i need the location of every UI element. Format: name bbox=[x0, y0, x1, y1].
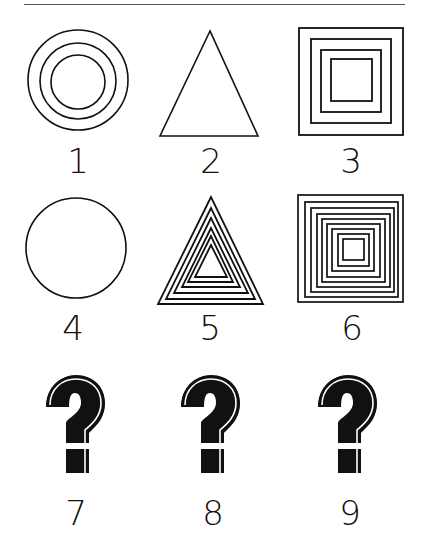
shape-7-question-mark-icon bbox=[46, 375, 105, 473]
cell-label-9: 9 bbox=[339, 493, 361, 533]
cell-label-3: 3 bbox=[340, 141, 362, 181]
shape-9-question-mark-icon bbox=[318, 375, 377, 473]
cell-label-4: 4 bbox=[62, 308, 84, 348]
shape-6-nested-squares bbox=[298, 195, 403, 302]
shape-1-concentric-circles bbox=[28, 30, 128, 130]
cell-label-6: 6 bbox=[341, 308, 363, 348]
cell-label-5: 5 bbox=[199, 308, 221, 348]
shape-2-triangle bbox=[160, 31, 258, 136]
cell-label-1: 1 bbox=[67, 141, 89, 181]
puzzle-grid: 1 2 3 4 5 6 7 8 9 bbox=[0, 0, 423, 546]
shape-8-question-mark-icon bbox=[181, 375, 240, 473]
cell-label-2: 2 bbox=[200, 141, 222, 181]
shape-5-nested-triangles bbox=[158, 197, 263, 304]
cell-label-8: 8 bbox=[202, 493, 224, 533]
shape-4-circle bbox=[26, 198, 126, 298]
cell-label-7: 7 bbox=[65, 493, 87, 533]
shape-3-nested-squares bbox=[299, 28, 403, 135]
